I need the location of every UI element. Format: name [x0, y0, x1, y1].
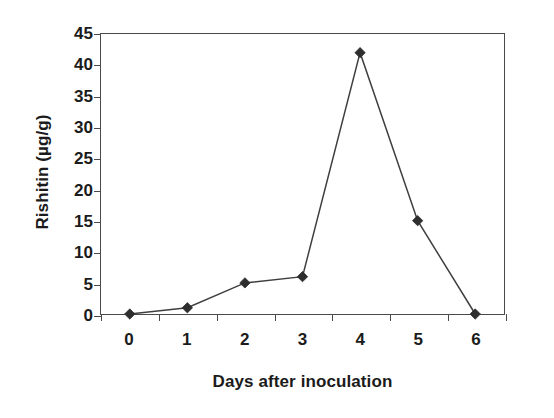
- x-axis-tick-label: 2: [225, 327, 265, 353]
- x-axis-tick-label: 0: [109, 327, 149, 353]
- y-axis-tick-label: 0: [52, 307, 93, 324]
- y-axis-tick-mark: [94, 285, 101, 286]
- y-axis-tick-mark: [94, 316, 101, 317]
- y-axis-tick-label: 20: [52, 181, 93, 198]
- x-axis-tick-label: 3: [283, 327, 323, 353]
- y-axis-tick-mark: [94, 97, 101, 98]
- x-axis-tick-mark: [217, 314, 218, 321]
- x-axis-tick-label: 6: [456, 327, 496, 353]
- data-point-marker: [412, 216, 422, 226]
- y-axis-tick-mark: [94, 222, 101, 223]
- y-axis-tick-mark: [94, 34, 101, 35]
- chart-figure: Rishitin (µg/g) 051015202530354045 01234…: [0, 0, 554, 418]
- y-axis-tick-label: 45: [52, 25, 93, 42]
- x-axis-tick-label: 5: [398, 327, 438, 353]
- data-point-marker: [470, 309, 480, 319]
- y-axis-tick-label: 5: [52, 275, 93, 292]
- x-axis-tick-mark: [159, 314, 160, 321]
- y-axis-tick-mark: [94, 65, 101, 66]
- data-point-marker: [125, 309, 135, 319]
- y-axis-tick-label: 30: [52, 119, 93, 136]
- data-point-marker: [355, 48, 365, 58]
- data-point-marker: [182, 303, 192, 313]
- y-axis-tick-label: 10: [52, 244, 93, 261]
- y-axis-tick-mark: [94, 128, 101, 129]
- x-axis-tick-label: 4: [340, 327, 380, 353]
- y-axis-tick-mark: [94, 253, 101, 254]
- plot-area: [100, 33, 505, 315]
- x-axis-tick-mark: [101, 314, 102, 321]
- y-axis-tick-label-group: 051015202530354045: [52, 33, 93, 315]
- y-axis-tick-label: 40: [52, 56, 93, 73]
- y-axis-tick-mark: [94, 191, 101, 192]
- y-axis-tick-label: 25: [52, 150, 93, 167]
- line-series-svg: [101, 34, 504, 314]
- data-point-marker-group: [125, 48, 481, 320]
- y-axis-tick-label: 35: [52, 87, 93, 104]
- x-axis-tick-label-group: 0123456: [100, 327, 505, 353]
- x-axis-tick-mark: [506, 314, 507, 321]
- data-point-marker: [240, 278, 250, 288]
- y-axis-tick-label: 15: [52, 213, 93, 230]
- x-axis-tick-mark: [448, 314, 449, 321]
- data-point-marker: [297, 272, 307, 282]
- x-axis-tick-mark: [275, 314, 276, 321]
- x-axis-tick-mark: [332, 314, 333, 321]
- x-axis-title: Days after inoculation: [100, 372, 505, 392]
- y-axis-tick-mark: [94, 159, 101, 160]
- x-axis-tick-mark: [390, 314, 391, 321]
- x-axis-tick-label: 1: [167, 327, 207, 353]
